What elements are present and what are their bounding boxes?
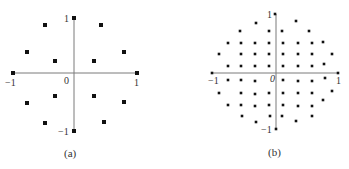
constellation-point — [297, 65, 300, 68]
constellation-point — [282, 42, 285, 45]
constellation-point — [254, 80, 257, 83]
constellation-point — [331, 90, 334, 93]
label-origin-a: 0 — [64, 75, 69, 86]
constellation-point — [282, 104, 285, 107]
constellation-point — [268, 104, 271, 107]
constellation-point — [297, 53, 300, 56]
constellation-point — [295, 120, 298, 123]
caption-b: (b) — [268, 146, 281, 159]
constellation-point — [268, 65, 271, 68]
constellation-point — [240, 104, 243, 107]
label-x-right-a: 1 — [134, 77, 139, 88]
constellation-point — [268, 30, 271, 33]
panel-a-constellation: 1 −1 −1 1 0 (a) — [5, 13, 139, 160]
constellation-point — [297, 105, 300, 108]
constellation-point — [254, 93, 257, 96]
caption-a: (a) — [64, 147, 77, 160]
constellation-point — [269, 115, 272, 118]
constellation-point — [282, 65, 285, 68]
constellation-point — [281, 115, 284, 118]
label-y-top-b: 1 — [267, 9, 272, 20]
constellation-figure: 1 −1 −1 1 0 (a) 1 −1 −1 1 0 (b) — [0, 0, 349, 169]
constellation-point — [337, 72, 340, 75]
constellation-point — [324, 77, 327, 80]
constellation-point — [275, 128, 278, 131]
constellation-point — [268, 92, 271, 95]
constellation-point — [122, 50, 126, 54]
constellation-point — [25, 101, 29, 105]
points-a — [11, 16, 139, 133]
label-y-bottom-a: −1 — [58, 126, 69, 137]
constellation-point — [323, 63, 326, 66]
constellation-point — [311, 53, 314, 56]
constellation-point — [240, 79, 243, 82]
constellation-point — [218, 53, 221, 56]
constellation-point — [11, 71, 15, 75]
label-y-top-a: 1 — [64, 13, 69, 24]
constellation-point — [311, 80, 314, 83]
label-origin-b: 0 — [270, 73, 275, 84]
constellation-point — [311, 115, 314, 118]
constellation-point — [311, 42, 314, 45]
constellation-point — [282, 92, 285, 95]
constellation-point — [240, 42, 243, 45]
label-x-right-b: 1 — [336, 75, 341, 86]
constellation-point — [25, 50, 29, 54]
constellation-point — [240, 65, 243, 68]
constellation-point — [218, 92, 221, 95]
constellation-point — [53, 94, 57, 98]
constellation-point — [295, 20, 298, 23]
constellation-point — [135, 71, 139, 75]
constellation-point — [102, 120, 106, 124]
constellation-point — [92, 94, 96, 98]
constellation-point — [311, 92, 314, 95]
panel-b-constellation: 1 −1 −1 1 0 (b) — [208, 9, 341, 159]
constellation-point — [240, 92, 243, 95]
constellation-point — [311, 105, 314, 108]
constellation-point — [297, 80, 300, 83]
constellation-point — [281, 30, 284, 33]
constellation-point — [241, 115, 244, 118]
constellation-point — [254, 53, 257, 56]
label-x-left-b: −1 — [208, 75, 219, 86]
constellation-point — [43, 121, 47, 125]
constellation-point — [268, 42, 271, 45]
constellation-point — [255, 22, 258, 25]
constellation-point — [331, 53, 334, 56]
constellation-point — [211, 72, 214, 75]
constellation-point — [240, 53, 243, 56]
constellation-point — [254, 65, 257, 68]
constellation-point — [254, 105, 257, 108]
constellation-point — [322, 41, 325, 44]
constellation-point — [297, 92, 300, 95]
constellation-point — [99, 23, 103, 27]
constellation-point — [254, 42, 257, 45]
constellation-point — [322, 99, 325, 102]
constellation-point — [308, 30, 311, 33]
constellation-point — [53, 59, 57, 63]
constellation-point — [268, 53, 271, 56]
constellation-point — [43, 23, 47, 27]
constellation-point — [311, 65, 314, 68]
constellation-point — [282, 79, 285, 82]
constellation-point — [92, 59, 96, 63]
constellation-point — [297, 42, 300, 45]
constellation-point — [72, 129, 76, 133]
constellation-point — [227, 65, 230, 68]
constellation-point — [274, 13, 277, 16]
constellation-point — [282, 53, 285, 56]
label-y-bottom-b: −1 — [261, 124, 272, 135]
constellation-point — [227, 42, 230, 45]
constellation-point — [227, 104, 230, 107]
constellation-point — [72, 16, 76, 20]
constellation-point — [227, 79, 230, 82]
constellation-point — [122, 100, 126, 104]
constellation-point — [255, 121, 258, 124]
label-x-left-a: −1 — [5, 77, 16, 88]
constellation-point — [239, 30, 242, 33]
points-b — [211, 13, 340, 131]
